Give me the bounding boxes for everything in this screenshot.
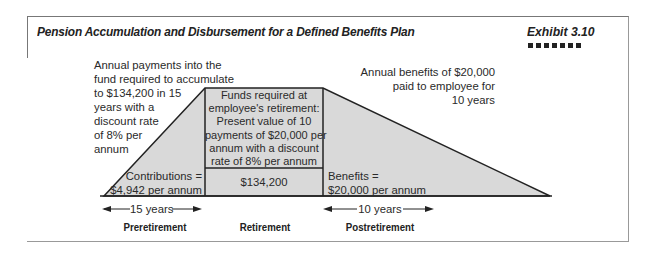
- right-note: Annual benefits of $20,000 paid to emplo…: [337, 65, 495, 107]
- center-box-text: Funds required at employee's retirement:…: [205, 89, 323, 168]
- phase-postretirement: Postretirement: [336, 221, 424, 233]
- right-duration: 10 years: [357, 202, 403, 216]
- center-value: $134,200: [205, 175, 323, 189]
- phase-retirement: Retirement: [225, 221, 304, 233]
- left-duration: 15 years: [130, 202, 172, 216]
- benefits-label: Benefits = $20,000 per annum: [328, 169, 426, 197]
- phase-preretirement: Preretirement: [115, 221, 194, 233]
- contributions-label: Contributions = $4,942 per annum: [110, 169, 202, 197]
